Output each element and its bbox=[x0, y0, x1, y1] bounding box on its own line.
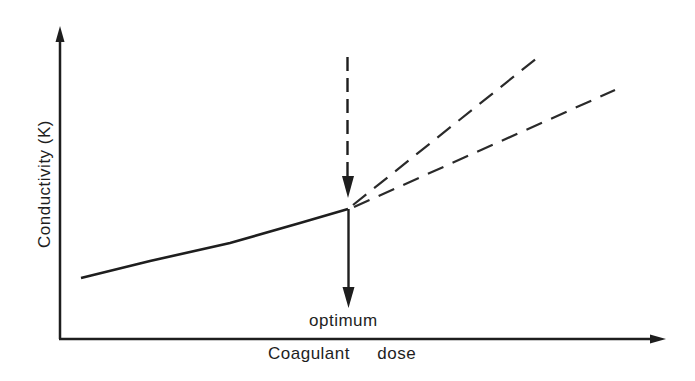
y-axis-label: Conductivity (K) bbox=[35, 120, 55, 248]
x-axis bbox=[59, 335, 666, 344]
optimum-down-arrow bbox=[343, 209, 355, 308]
dashed-extrapolation-lower bbox=[354, 90, 615, 207]
solid-conductivity-line bbox=[81, 209, 348, 278]
y-axis-arrowhead-icon bbox=[56, 26, 65, 42]
conductivity-diagram: Conductivity (K) optimum Coagulant dose bbox=[0, 0, 695, 381]
dashed-arrowhead-icon bbox=[342, 176, 354, 198]
dashed-extrapolation-upper bbox=[353, 58, 537, 205]
x-axis-label: Coagulant dose bbox=[268, 344, 416, 364]
down-arrowhead-icon bbox=[343, 287, 355, 308]
y-axis bbox=[56, 26, 65, 339]
optimum-label: optimum bbox=[309, 311, 378, 331]
x-axis-arrowhead-icon bbox=[650, 335, 666, 344]
dashed-down-arrow bbox=[342, 57, 354, 198]
